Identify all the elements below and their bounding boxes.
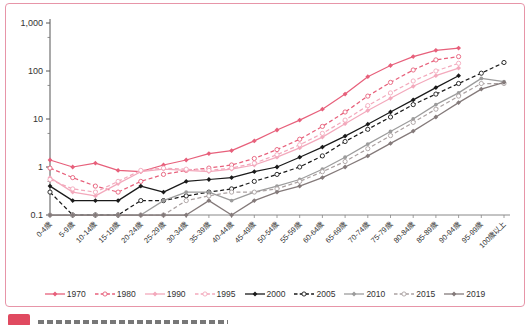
- x-tick-label: 20-24歳: [119, 219, 145, 245]
- caption-number-badge: [8, 314, 30, 325]
- x-tick-label: 10-14歳: [73, 219, 99, 245]
- series-1970: [48, 46, 461, 174]
- x-tick-label: 55-59歳: [278, 219, 304, 245]
- legend-label-2010: 2010: [366, 289, 385, 299]
- legend-marker-2019: [444, 290, 464, 298]
- series-1995: [48, 61, 461, 194]
- line-chart: 0.11101001,0000-4歳5-9歳10-14歳15-19歳20-24歳…: [8, 7, 524, 269]
- legend-item-1970: 1970: [45, 289, 86, 299]
- x-tick-label: 90-94歳: [436, 219, 462, 245]
- y-tick-label: 1: [38, 162, 43, 172]
- legend-label-1995: 1995: [217, 289, 236, 299]
- legend-label-2015: 2015: [416, 289, 435, 299]
- series-1990: [48, 66, 461, 199]
- x-tick-label: 65-69歳: [323, 219, 349, 245]
- legend-marker-1990: [145, 290, 165, 298]
- x-tick-label: 60-64歳: [300, 219, 326, 245]
- legend-label-1990: 1990: [167, 289, 186, 299]
- caption-text-sliver: [38, 320, 228, 324]
- legend-item-2000: 2000: [245, 289, 286, 299]
- legend-marker-1980: [95, 290, 115, 298]
- legend-item-1990: 1990: [145, 289, 186, 299]
- x-tick-label: 85-89歳: [414, 219, 440, 245]
- legend-label-1970: 1970: [67, 289, 86, 299]
- legend-marker-1970: [45, 290, 65, 298]
- legend-marker-2010: [344, 290, 364, 298]
- x-tick-label: 75-79歳: [368, 219, 394, 245]
- legend-label-2005: 2005: [316, 289, 335, 299]
- legend-item-2005: 2005: [294, 289, 335, 299]
- legend-label-2000: 2000: [267, 289, 286, 299]
- x-tick-label: 50-54歳: [255, 219, 281, 245]
- legend-marker-1995: [195, 290, 215, 298]
- x-tick-label: 70-74歳: [346, 219, 372, 245]
- caption-cropped: [0, 311, 532, 325]
- x-tick-label: 45-49歳: [232, 219, 258, 245]
- x-tick-label: 25-29歳: [141, 219, 167, 245]
- x-tick-label: 80-84歳: [391, 219, 417, 245]
- legend-marker-2005: [294, 290, 314, 298]
- legend-label-2019: 2019: [466, 289, 485, 299]
- y-tick-label: 1,000: [20, 18, 43, 28]
- chart-legend: 197019801990199520002005201020152019: [6, 289, 524, 299]
- legend-item-1980: 1980: [95, 289, 136, 299]
- x-tick-label: 5-9歳: [56, 219, 76, 239]
- figure-box: 0.11101001,0000-4歳5-9歳10-14歳15-19歳20-24歳…: [5, 3, 525, 307]
- y-tick-label: 100: [28, 66, 43, 76]
- x-tick-label: 15-19歳: [96, 219, 122, 245]
- legend-label-1980: 1980: [117, 289, 136, 299]
- x-tick-label: 35-39歳: [187, 219, 213, 245]
- legend-item-2015: 2015: [394, 289, 435, 299]
- legend-item-1995: 1995: [195, 289, 236, 299]
- y-tick-label: 0.1: [30, 210, 43, 220]
- x-tick-label: 30-34歳: [164, 219, 190, 245]
- series-2010: [48, 77, 506, 217]
- legend-item-2019: 2019: [444, 289, 485, 299]
- legend-item-2010: 2010: [344, 289, 385, 299]
- x-tick-label: 0-4歳: [34, 219, 54, 239]
- x-tick-label: 40-44歳: [209, 219, 235, 245]
- y-tick-label: 10: [33, 114, 43, 124]
- legend-marker-2000: [245, 290, 265, 298]
- legend-marker-2015: [394, 290, 414, 298]
